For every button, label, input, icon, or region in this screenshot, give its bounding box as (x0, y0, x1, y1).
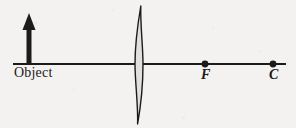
object-label: Object (14, 66, 53, 80)
center-of-curvature-label: C (269, 68, 278, 82)
diagram-canvas (0, 0, 296, 128)
object-arrow-head (23, 13, 36, 30)
converging-lens-shape (135, 6, 143, 124)
focal-point-label: F (201, 68, 210, 82)
object-arrow (23, 13, 36, 65)
object-arrow-shaft (27, 26, 32, 65)
optics-diagram: Object F C (0, 0, 296, 128)
